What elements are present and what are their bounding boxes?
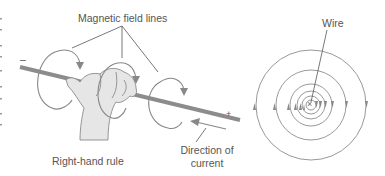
direction-label-line1: Direction of — [167, 144, 247, 156]
wire-cross-mark: × — [307, 98, 312, 110]
hand-illustration — [66, 68, 137, 140]
down-arrows — [315, 101, 368, 108]
field-lines-leaders — [72, 26, 158, 72]
field-lines-label: Magnetic field lines — [78, 12, 167, 24]
wire-label: Wire — [322, 17, 344, 29]
minus-sign: – — [20, 53, 26, 65]
right-hand-rule-label: Right-hand rule — [52, 155, 124, 167]
current-direction-arrow — [190, 118, 226, 142]
plus-sign: + — [226, 108, 231, 120]
direction-label-line2: current — [167, 157, 247, 169]
left-edge-marks — [0, 18, 2, 126]
right-hand-rule-diagram: Magnetic field lines – + Right-hand rule… — [0, 0, 385, 176]
wire-leader — [311, 30, 327, 102]
